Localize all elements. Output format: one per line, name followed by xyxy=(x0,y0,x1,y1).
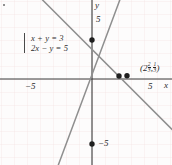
x-axis-tick-negative-5: −5 xyxy=(25,82,36,91)
solution-y-fraction: 1 3 xyxy=(153,62,156,73)
y-axis-tick-negative-5: −5 xyxy=(98,139,109,148)
point-solution-intersection xyxy=(124,73,129,78)
y-axis-label: y xyxy=(95,1,99,10)
equation-one: x + y = 3 xyxy=(31,33,68,43)
close-paren: ) xyxy=(156,63,159,73)
x-axis-label: x xyxy=(164,81,168,90)
solution-y-denominator: 3 xyxy=(153,67,156,73)
y-axis-tick-positive-5: 5 xyxy=(96,15,101,24)
scan-artifact-dot xyxy=(3,4,5,6)
solution-coordinate-label: ( 2 2 3 , 1 3 ) xyxy=(140,62,159,73)
brace-icon xyxy=(24,33,28,53)
equation-two: 2x − y = 5 xyxy=(31,43,68,53)
graph-figure: x + y = 3 2x − y = 5 −5 5 5 −5 x y ( 2 2… xyxy=(0,0,172,165)
solution-x-denominator: 3 xyxy=(148,67,151,73)
point-near-intersection xyxy=(116,73,121,78)
solution-x-fraction: 2 3 xyxy=(148,62,151,73)
x-axis-tick-positive-5: 5 xyxy=(148,82,153,91)
system-of-equations: x + y = 3 2x − y = 5 xyxy=(24,33,68,53)
point-y-intercept-3 xyxy=(89,37,94,42)
point-y-intercept-neg5 xyxy=(89,141,94,146)
